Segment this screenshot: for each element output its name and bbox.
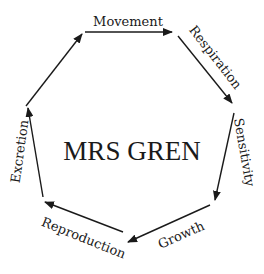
stage-label-excretion: Excretion (8, 118, 32, 184)
arrow-sensitivity (215, 113, 234, 200)
stage-label-movement: Movement (93, 14, 164, 29)
arrow-to-movement (26, 34, 82, 106)
center-title: MRS GREN (63, 136, 200, 166)
stage-label-growth: Growth (156, 218, 208, 252)
stage-label-reproduction: Reproduction (39, 214, 128, 262)
stage-label-sensitivity: Sensitivity (231, 117, 258, 188)
mrs-gren-cycle-diagram: MRS GREN Movement Respiration Sensitivit… (0, 0, 264, 274)
